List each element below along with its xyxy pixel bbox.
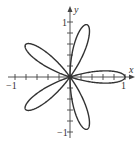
rose-curve-plot: x y −1 1 1 −1: [0, 0, 136, 146]
x-axis-arrow-icon: [129, 75, 135, 80]
x-min-label: −1: [6, 80, 17, 91]
y-max-label: 1: [62, 17, 67, 28]
y-axis-label: y: [73, 4, 79, 15]
y-min-label: −1: [57, 127, 68, 138]
x-max-label: 1: [121, 80, 126, 91]
y-axis-arrow-icon: [68, 6, 73, 12]
x-axis-label: x: [128, 64, 134, 75]
